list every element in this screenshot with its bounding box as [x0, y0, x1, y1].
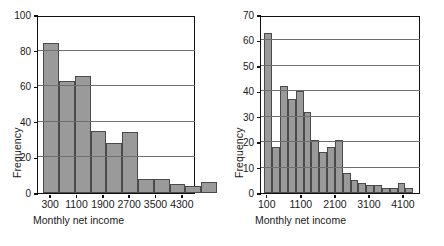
- histogram-bar: [319, 152, 327, 193]
- histogram-bar: [405, 188, 413, 193]
- r-gridline: [261, 167, 420, 168]
- l-ytick-label: 80: [5, 46, 31, 57]
- histogram-bar: [351, 180, 359, 193]
- histogram-bar: [366, 185, 374, 193]
- l-xtick-mark: [76, 195, 77, 198]
- l-ytick-mark: [34, 122, 38, 123]
- histogram-bar: [43, 43, 59, 193]
- r-ytick-label: 40: [228, 86, 254, 97]
- histogram-bar: [280, 86, 288, 193]
- histogram-bar: [288, 99, 296, 193]
- histogram-bar: [75, 76, 91, 193]
- l-ytick-mark: [34, 193, 38, 194]
- histogram-bar: [390, 188, 398, 193]
- r-gridline: [261, 39, 420, 40]
- r-ytick-mark: [257, 117, 261, 118]
- l-gridline: [38, 156, 195, 157]
- left-bar-group: [38, 16, 195, 193]
- histogram-bar: [138, 179, 154, 193]
- r-gridline: [261, 116, 420, 117]
- l-ytick-label: 0: [5, 188, 31, 199]
- histogram-bar: [122, 132, 138, 193]
- histogram-bar: [154, 179, 170, 193]
- histogram-bar: [106, 143, 122, 193]
- histogram-bar: [382, 188, 390, 193]
- r-gridline: [261, 141, 420, 142]
- l-ytick-mark: [34, 15, 38, 16]
- left-plot-area: [37, 16, 195, 194]
- r-ytick-mark: [257, 168, 261, 169]
- histogram-bar: [185, 186, 201, 193]
- histogram-bar: [358, 183, 366, 193]
- l-gridline: [38, 121, 195, 122]
- l-ytick-mark: [34, 158, 38, 159]
- l-gridline: [38, 50, 195, 51]
- histogram-bar: [398, 183, 406, 193]
- r-gridline: [261, 65, 420, 66]
- r-ytick-label: 20: [228, 137, 254, 148]
- r-xtick-label: 4100: [383, 198, 423, 210]
- right-histogram-panel: Frequency 010203040506070 10011002100310…: [222, 0, 444, 246]
- r-xtick-mark: [334, 195, 335, 198]
- r-ytick-mark: [257, 15, 261, 16]
- l-ytick-label: 40: [5, 117, 31, 128]
- histogram-bar: [327, 147, 335, 193]
- histogram-bar: [264, 33, 272, 193]
- l-xtick-mark: [102, 195, 103, 198]
- l-ytick-mark: [34, 51, 38, 52]
- r-ytick-mark: [257, 41, 261, 42]
- r-xtick-mark: [402, 195, 403, 198]
- histogram-bar: [343, 173, 351, 193]
- r-xtick-mark: [300, 195, 301, 198]
- r-ytick-label: 50: [228, 61, 254, 72]
- right-plot-area: [260, 16, 420, 194]
- l-xtick-label: 4300: [162, 198, 202, 210]
- r-ytick-label: 70: [228, 10, 254, 21]
- l-ytick-label: 20: [5, 152, 31, 163]
- l-ytick-label: 100: [5, 10, 31, 21]
- r-ytick-label: 10: [228, 163, 254, 174]
- r-ytick-mark: [257, 92, 261, 93]
- histogram-bar: [272, 147, 280, 193]
- histogram-bar: [170, 184, 186, 193]
- histogram-bar: [201, 182, 217, 193]
- histogram-figure: Frequency 020406080100 30011001900270035…: [0, 0, 444, 246]
- l-ytick-label: 60: [5, 81, 31, 92]
- r-ytick-mark: [257, 142, 261, 143]
- histogram-bar: [59, 81, 75, 193]
- r-ytick-label: 30: [228, 112, 254, 123]
- histogram-bar: [374, 185, 382, 193]
- histogram-bar: [91, 131, 107, 193]
- r-xtick-mark: [368, 195, 369, 198]
- r-ytick-mark: [257, 66, 261, 67]
- r-ytick-label: 60: [228, 35, 254, 46]
- l-xtick-mark: [181, 195, 182, 198]
- r-xtick-mark: [266, 195, 267, 198]
- l-ytick-mark: [34, 87, 38, 88]
- l-xtick-mark: [128, 195, 129, 198]
- left-x-axis-title: Monthly net income: [33, 214, 124, 226]
- histogram-bar: [304, 112, 312, 193]
- right-x-axis-title: Monthly net income: [255, 214, 346, 226]
- l-gridline: [38, 85, 195, 86]
- r-gridline: [261, 90, 420, 91]
- left-histogram-panel: Frequency 020406080100 30011001900270035…: [0, 0, 222, 246]
- r-ytick-mark: [257, 193, 261, 194]
- l-xtick-mark: [49, 195, 50, 198]
- l-xtick-mark: [155, 195, 156, 198]
